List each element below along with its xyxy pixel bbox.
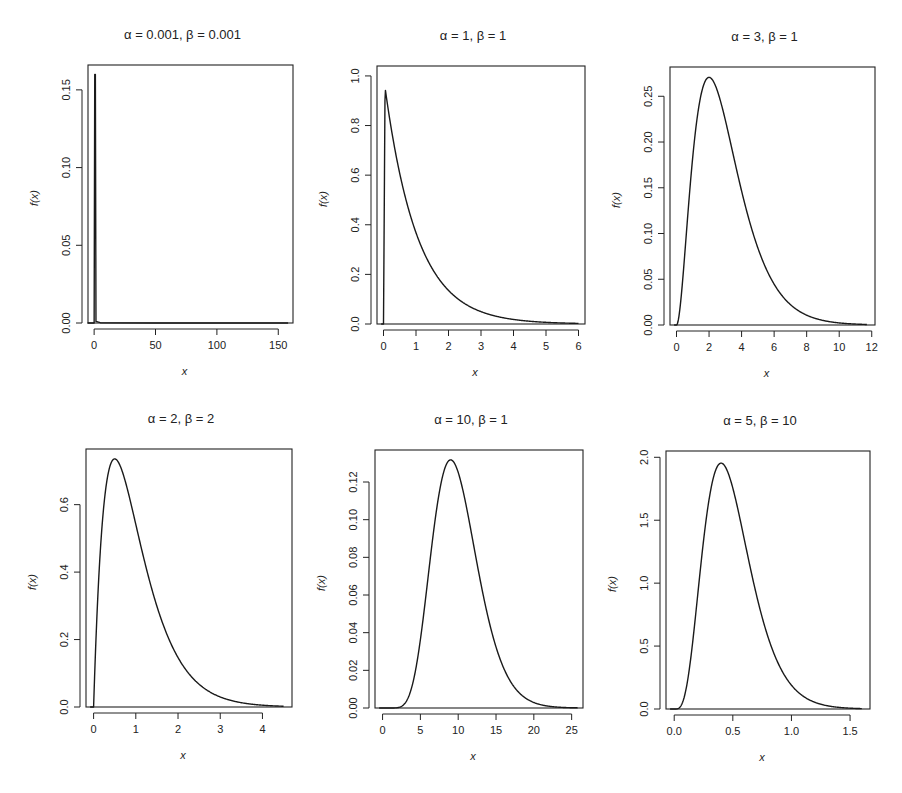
x-tick-label: 0 bbox=[673, 341, 679, 353]
panel-6: α = 5, β = 100.00.51.01.5x0.00.51.01.52.… bbox=[600, 398, 900, 793]
chart-3: α = 3, β = 1024681012x0.000.050.100.150.… bbox=[600, 0, 902, 395]
x-tick-label: 2 bbox=[706, 341, 712, 353]
x-tick-label: 6 bbox=[575, 340, 581, 352]
y-tick-label: 0.0 bbox=[638, 701, 650, 716]
x-tick-label: 2 bbox=[175, 723, 181, 735]
y-axis-label: f(x) bbox=[317, 191, 329, 207]
y-tick-label: 0.10 bbox=[642, 223, 654, 244]
y-tick-label: 0.15 bbox=[642, 177, 654, 198]
x-tick-label: 0 bbox=[91, 723, 97, 735]
y-tick-label: 1.5 bbox=[638, 513, 650, 528]
x-tick-label: 4 bbox=[739, 341, 745, 353]
x-tick-label: 0 bbox=[380, 340, 386, 352]
y-tick-label: 0.6 bbox=[58, 497, 70, 512]
x-axis-label: x bbox=[181, 365, 188, 377]
x-tick-label: 4 bbox=[510, 340, 516, 352]
density-curve bbox=[381, 90, 578, 324]
density-curve bbox=[88, 74, 288, 323]
x-tick-label: 10 bbox=[452, 724, 464, 736]
y-tick-label: 0.15 bbox=[60, 79, 72, 100]
y-tick-label: 0.00 bbox=[60, 312, 72, 333]
x-tick-label: 2 bbox=[445, 340, 451, 352]
y-tick-label: 0.4 bbox=[349, 217, 361, 232]
x-tick-label: 1 bbox=[413, 340, 419, 352]
x-axis-label: x bbox=[471, 366, 478, 378]
x-tick-label: 8 bbox=[804, 341, 810, 353]
y-tick-label: 0.0 bbox=[349, 316, 361, 331]
x-tick-label: 0.5 bbox=[725, 725, 740, 737]
chart-title: α = 10, β = 1 bbox=[434, 412, 508, 427]
x-tick-label: 15 bbox=[490, 724, 502, 736]
x-tick-label: 6 bbox=[771, 341, 777, 353]
x-tick-label: 0.0 bbox=[667, 725, 682, 737]
x-tick-label: 1 bbox=[133, 723, 139, 735]
y-tick-label: 0.25 bbox=[642, 86, 654, 107]
y-tick-label: 0.05 bbox=[60, 235, 72, 256]
y-tick-label: 0.20 bbox=[642, 131, 654, 152]
x-axis-label: x bbox=[179, 749, 186, 761]
plot-frame bbox=[377, 66, 585, 324]
plot-frame bbox=[666, 451, 870, 709]
chart-1: α = 0.001, β = 0.001050100150x0.000.050.… bbox=[0, 0, 300, 395]
y-tick-label: 0.02 bbox=[347, 660, 359, 681]
panel-4: α = 2, β = 201234x0.00.20.40.6f(x) bbox=[0, 398, 300, 793]
y-axis-label: f(x) bbox=[26, 574, 38, 590]
density-curve bbox=[90, 459, 283, 707]
figure-grid: α = 0.001, β = 0.001050100150x0.000.050.… bbox=[0, 0, 902, 793]
y-axis-label: f(x) bbox=[28, 190, 40, 206]
y-tick-label: 2.0 bbox=[638, 450, 650, 465]
x-tick-label: 150 bbox=[269, 339, 287, 351]
x-tick-label: 12 bbox=[866, 341, 878, 353]
plot-frame bbox=[86, 449, 292, 707]
x-axis: 0510152025 bbox=[380, 714, 578, 736]
x-tick-label: 1.0 bbox=[784, 725, 799, 737]
y-tick-label: 0.04 bbox=[347, 622, 359, 643]
plot-frame bbox=[670, 67, 875, 325]
y-tick-label: 0.2 bbox=[58, 632, 70, 647]
x-axis: 024681012 bbox=[673, 331, 877, 353]
panel-2: α = 1, β = 10123456x0.00.20.40.60.81.0f(… bbox=[300, 0, 600, 395]
y-tick-label: 0.4 bbox=[58, 564, 70, 579]
y-axis: 0.00.20.40.6 bbox=[58, 497, 80, 715]
y-tick-label: 0.05 bbox=[642, 269, 654, 290]
y-tick-label: 0.6 bbox=[349, 168, 361, 183]
y-tick-label: 0.06 bbox=[347, 584, 359, 605]
density-curve bbox=[379, 460, 578, 708]
y-axis: 0.000.020.040.060.080.100.12 bbox=[347, 471, 369, 718]
plot-frame bbox=[375, 450, 583, 708]
y-axis: 0.00.51.01.52.0 bbox=[638, 450, 660, 717]
density-curve bbox=[674, 77, 867, 325]
chart-title: α = 5, β = 10 bbox=[723, 413, 797, 428]
x-axis: 0123456 bbox=[380, 330, 581, 352]
chart-5: α = 10, β = 10510152025x0.000.020.040.06… bbox=[300, 398, 600, 793]
x-tick-label: 1.5 bbox=[842, 725, 857, 737]
y-tick-label: 0.0 bbox=[58, 699, 70, 714]
chart-title: α = 0.001, β = 0.001 bbox=[124, 27, 241, 42]
y-tick-label: 0.2 bbox=[349, 267, 361, 282]
chart-title: α = 3, β = 1 bbox=[731, 29, 797, 44]
plot-frame bbox=[88, 65, 293, 323]
x-tick-label: 10 bbox=[833, 341, 845, 353]
y-tick-label: 0.10 bbox=[60, 157, 72, 178]
panel-5: α = 10, β = 10510152025x0.000.020.040.06… bbox=[300, 398, 600, 793]
y-tick-label: 0.08 bbox=[347, 547, 359, 568]
x-axis: 01234 bbox=[91, 713, 266, 735]
y-tick-label: 1.0 bbox=[349, 68, 361, 83]
y-tick-label: 1.0 bbox=[638, 575, 650, 590]
y-axis: 0.000.050.100.150.200.25 bbox=[642, 86, 664, 336]
x-axis: 0.00.51.01.5 bbox=[667, 715, 858, 737]
density-curve bbox=[670, 463, 862, 709]
panel-3: α = 3, β = 1024681012x0.000.050.100.150.… bbox=[600, 0, 900, 395]
x-axis-label: x bbox=[763, 367, 770, 379]
x-tick-label: 100 bbox=[208, 339, 226, 351]
x-tick-label: 0 bbox=[91, 339, 97, 351]
x-tick-label: 0 bbox=[380, 724, 386, 736]
chart-4: α = 2, β = 201234x0.00.20.40.6f(x) bbox=[0, 398, 300, 793]
y-axis-label: f(x) bbox=[610, 192, 622, 208]
y-axis: 0.000.050.100.15 bbox=[60, 79, 82, 334]
chart-2: α = 1, β = 10123456x0.00.20.40.60.81.0f(… bbox=[300, 0, 600, 395]
panel-1: α = 0.001, β = 0.001050100150x0.000.050.… bbox=[0, 0, 300, 395]
y-axis: 0.00.20.40.60.81.0 bbox=[349, 68, 371, 331]
x-tick-label: 4 bbox=[259, 723, 265, 735]
x-tick-label: 50 bbox=[149, 339, 161, 351]
